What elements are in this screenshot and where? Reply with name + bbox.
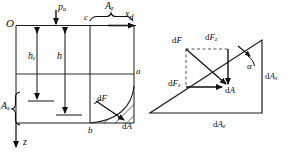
resultant-force-arrow xyxy=(186,49,226,84)
horizontal-component-label: dFx xyxy=(168,79,180,89)
figure-root: O x z pa hc h Az Ax c d a b ddFF dA dF d… xyxy=(0,0,289,166)
force-triangle xyxy=(150,40,262,113)
left-dA-label: dA xyxy=(122,122,132,131)
projected-area-daz-label: dAz xyxy=(213,120,225,130)
left-dF-label: ddFF xyxy=(97,94,107,103)
point-b-label: b xyxy=(88,126,93,135)
depth-hc-label: hc xyxy=(28,51,36,62)
resultant-dF-label: dF xyxy=(172,36,182,45)
vertical-component-label: dFz xyxy=(205,33,217,43)
alpha-angle-label: α xyxy=(247,62,252,71)
projected-area-dax-label: dAx xyxy=(265,72,277,82)
point-c-label: c xyxy=(84,13,88,22)
z-axis-label: z xyxy=(23,137,27,147)
point-a-label: a xyxy=(136,67,141,76)
depth-dimension-h xyxy=(56,27,82,115)
depth-dimension-hc xyxy=(28,27,54,101)
origin-label: O xyxy=(6,18,14,29)
diagram-canvas xyxy=(0,0,289,166)
right-dA-label: dA xyxy=(225,86,235,95)
depth-h-label: h xyxy=(57,51,62,61)
body-outline xyxy=(16,26,134,124)
area-az-label: Az xyxy=(105,1,114,12)
area-ax-label: Ax xyxy=(1,101,10,112)
point-d-label: d xyxy=(129,13,134,22)
surface-pressure-label: pa xyxy=(58,2,66,13)
